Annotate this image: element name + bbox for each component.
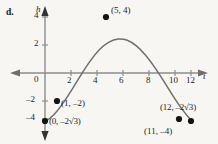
graph-canvas <box>0 0 218 144</box>
x-tick-label-4: 4 <box>93 76 98 85</box>
y-axis-bottom-arrow <box>41 131 48 141</box>
origin-tick-label: 0 <box>34 75 39 84</box>
y-tick-label-2: 2 <box>34 39 39 48</box>
x-tick-label-6: 6 <box>119 76 124 85</box>
point-12-minus-2root3 <box>188 118 194 124</box>
x-axis <box>10 69 208 76</box>
x-axis-left-arrow <box>10 69 20 76</box>
point-0-minus-2root3 <box>42 118 48 124</box>
point-1-minus-2 <box>54 98 60 104</box>
x-tick-label-2: 2 <box>67 76 72 85</box>
point-label-11-minus-4: (11, –4) <box>144 127 172 136</box>
part-label: d. <box>6 7 14 17</box>
figure-panel: d. h t 0 2 4 6 8 10 12 4 2 –2 –4 (5, 4) … <box>0 0 218 144</box>
y-tick-label-minus-4: –4 <box>26 113 35 122</box>
x-tick-label-12: 12 <box>186 76 195 85</box>
y-axis-top-arrow <box>41 6 48 16</box>
y-tick-label-4: 4 <box>34 11 39 20</box>
point-label-0-minus-2root3: (0, –2√3) <box>49 117 81 126</box>
y-tick-label-minus-2: –2 <box>26 95 35 104</box>
point-label-12-minus-2root3: (12, –2√3) <box>160 103 196 112</box>
x-axis-label: t <box>203 72 206 81</box>
point-5-4 <box>103 14 109 20</box>
x-tick-label-10: 10 <box>169 76 178 85</box>
x-tick-label-8: 8 <box>146 76 151 85</box>
point-label-1-minus-2: (1, –2) <box>61 99 85 108</box>
point-label-5-4: (5, 4) <box>111 6 131 15</box>
point-11-minus-4 <box>176 116 182 122</box>
